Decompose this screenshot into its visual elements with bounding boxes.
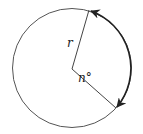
diagram-canvas: r n°	[0, 0, 143, 134]
radius-line-upper	[72, 10, 89, 69]
angle-label: n°	[78, 71, 92, 85]
radius-label: r	[67, 36, 74, 50]
arc-length-arrow	[91, 11, 131, 107]
circle-diagram: r n°	[0, 0, 143, 134]
